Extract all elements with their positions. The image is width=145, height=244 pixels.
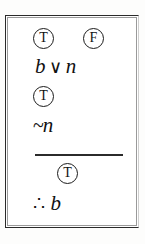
conclusion-formula: ∴b: [33, 191, 62, 216]
truth-value-true-label: T: [39, 89, 48, 103]
inference-rule-line: [35, 154, 123, 156]
truth-value-row-conclusion: T: [57, 163, 78, 184]
truth-value-false-label: F: [90, 31, 98, 45]
proof-content: TF b∨n T ~n T ∴b: [5, 15, 139, 228]
truth-value-row-premise-1: TF: [33, 28, 104, 49]
truth-value-row-premise-2: T: [33, 86, 54, 107]
truth-value-true-label: T: [63, 166, 72, 180]
truth-value-true-label: T: [39, 31, 48, 45]
therefore-symbol: ∴: [33, 193, 51, 214]
truth-value-true: T: [33, 86, 54, 107]
truth-value-false: F: [83, 28, 104, 49]
disjunction-operator: ∨: [46, 57, 66, 77]
premise-2-formula: ~n: [33, 113, 54, 138]
premise-1-formula: b∨n: [35, 54, 77, 79]
premise-2-operand: n: [43, 113, 54, 137]
truth-value-true: T: [57, 163, 78, 184]
negation-operator: ~: [33, 114, 43, 136]
premise-1-right-operand: n: [66, 54, 77, 78]
truth-value-true: T: [33, 28, 54, 49]
logic-proof-figure: TF b∨n T ~n T ∴b: [0, 0, 145, 244]
premise-1-left-operand: b: [35, 54, 46, 78]
conclusion-operand: b: [51, 191, 62, 215]
